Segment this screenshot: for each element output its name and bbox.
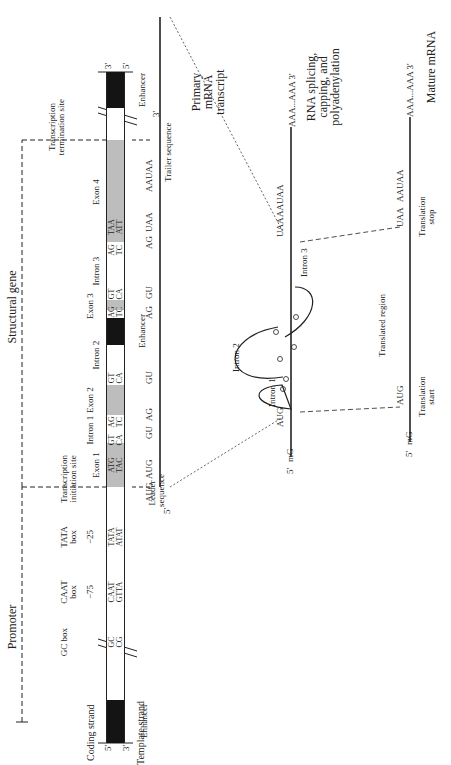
coding-strand-label: Coding strand	[86, 721, 96, 761]
primary-aug-label: AUG	[145, 460, 154, 480]
primary-5prime: 5'	[163, 508, 172, 514]
caat-seq-bottom: GTTA	[116, 580, 124, 604]
processing-intron2-label: Intron 2	[232, 343, 241, 372]
position-minus25: −25	[86, 522, 95, 552]
tata-seq-bottom: ATAT	[116, 525, 124, 549]
primary-ag3: AG	[145, 236, 154, 249]
exon2-block	[106, 385, 125, 415]
tata-box-label: TATA box	[60, 522, 78, 552]
primary-3prime: 3'	[152, 111, 161, 117]
translated-region-label: Translated region	[378, 294, 387, 357]
processing-intron3-label: Intron 3	[300, 248, 309, 277]
exon1-label: Exon 1	[92, 445, 101, 485]
primary-transcript-title: Primary mRNA transcript	[190, 57, 226, 127]
coding-5prime: 5'	[104, 745, 113, 751]
primary-aauaa: AAUAA	[145, 160, 154, 193]
att-bottom: ATT	[116, 215, 124, 239]
processing-cap: mG	[286, 449, 295, 463]
exon2-label: Exon 2	[86, 385, 95, 415]
mature-polya: AAA...AAA 3'	[406, 63, 415, 117]
intron1-label: Intron 1	[86, 415, 95, 445]
template-3prime: 3'	[122, 745, 131, 751]
processing-title: RNA splicing, capping, and polyadenylati…	[305, 37, 341, 137]
mature-aauaa: AAUAA	[396, 170, 405, 203]
intron1-ag-bottom: TC	[116, 415, 124, 429]
trailer-sequence-label: Trailer sequence	[164, 123, 173, 182]
processing-intron1-label: Intron 1	[268, 378, 277, 407]
tac-bottom: TAC	[116, 453, 124, 477]
primary-ag2: AG	[145, 306, 154, 319]
processing-aauaa: AAUAA	[276, 185, 285, 218]
position-minus75: −75	[86, 577, 95, 607]
intron3-gt-bottom: CA	[116, 287, 124, 301]
caat-box-label: CAAT box	[60, 577, 78, 607]
leader-sequence-label: Leader sequence	[148, 479, 166, 507]
gc-seq-bottom: CG	[116, 630, 124, 654]
primary-gu3: GU	[145, 286, 154, 299]
transcription-initiation-label: Transcription initiation site	[60, 449, 78, 509]
enhancer-label-left: Enhancer	[140, 699, 149, 743]
exon4-label: Exon 4	[92, 172, 101, 212]
primary-uaa: UAA	[145, 213, 154, 233]
translation-start-label: Translation start	[418, 377, 436, 417]
mature-cap: mG	[405, 432, 414, 446]
primary-ag1: AG	[145, 408, 154, 421]
coding-3prime: 3'	[104, 63, 113, 69]
primary-gu1: GU	[145, 426, 154, 439]
enhancer-block-left	[106, 700, 125, 743]
processing-polya: AAA...AAA 3'	[288, 73, 297, 127]
enhancer-block-right	[106, 72, 125, 108]
enhancer-block-mid	[106, 318, 125, 345]
intron3-label: Intron 3	[92, 251, 101, 291]
intron2-label: Intron 2	[92, 335, 101, 375]
intron1-gt-bottom: CA	[116, 433, 124, 447]
translation-stop-label: Translation stop	[418, 197, 436, 237]
gc-box-label: GC box	[60, 627, 69, 657]
intron3-ag-bottom: TC	[116, 243, 124, 257]
intron2-ag-bottom: TC	[116, 305, 124, 319]
mature-uaa: UAA	[396, 208, 405, 228]
processing-uaa: UAA	[276, 218, 285, 238]
processing-5prime: 5'	[286, 468, 295, 474]
downstream-block	[106, 108, 125, 140]
promoter-label: Promoter	[6, 577, 18, 677]
mature-5prime: 5'	[405, 451, 414, 457]
processing-aug: AUG	[276, 408, 285, 428]
template-5prime: 5'	[122, 63, 131, 69]
intron2-gt-bottom: CA	[116, 371, 124, 385]
exon3-label: Exon 3	[86, 291, 95, 321]
structural-gene-label: Structural gene	[6, 247, 18, 367]
mature-title: Mature mRNA	[425, 17, 437, 117]
primary-gu2: GU	[145, 371, 154, 384]
enhancer-label-right: Enhancer	[138, 68, 147, 112]
mature-aug: AUG	[396, 386, 405, 406]
transcription-termination-label: Transcription termination site	[48, 97, 66, 157]
